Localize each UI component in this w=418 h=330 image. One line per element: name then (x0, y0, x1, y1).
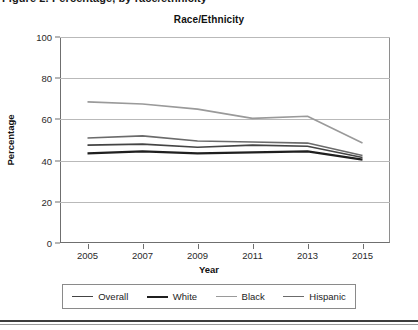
x-tick-mark (88, 244, 89, 249)
y-tick-label: 60 (12, 114, 52, 125)
legend-item-overall[interactable]: Overall (71, 291, 129, 302)
x-tick-label: 2007 (132, 250, 153, 261)
plot-area (60, 37, 390, 243)
x-tick-label: 2009 (187, 250, 208, 261)
legend-line-swatch (216, 296, 237, 297)
legend-label: White (173, 291, 197, 302)
legend-item-black[interactable]: Black (215, 291, 266, 302)
y-tick-label: 80 (12, 73, 52, 84)
x-tick-label: 2015 (352, 250, 373, 261)
x-tick-label: 2005 (77, 250, 98, 261)
legend-item-hispanic[interactable]: Hispanic (282, 291, 346, 302)
x-tick-label: 2013 (297, 250, 318, 261)
chart-card: Race/Ethnicity Percentage 020406080100 2… (0, 6, 418, 316)
chart-title: Race/Ethnicity (0, 14, 418, 25)
legend-label: Hispanic (309, 291, 345, 302)
y-tick-label: 0 (12, 238, 52, 249)
x-tick-mark (363, 244, 364, 249)
legend-label: Overall (98, 291, 128, 302)
legend-item-white[interactable]: White (146, 291, 198, 302)
legend-line-swatch (147, 296, 168, 298)
clipped-caption-text: Figure 2. Percentage, by race/ethnicity (2, 0, 207, 4)
y-tick-label: 40 (12, 155, 52, 166)
legend-line-swatch (72, 296, 93, 297)
footer-divider-thick (0, 320, 418, 322)
x-tick-mark (308, 244, 309, 249)
x-tick-mark (253, 244, 254, 249)
x-axis-title: Year (0, 264, 418, 275)
y-tick-label: 20 (12, 196, 52, 207)
x-tick-mark (198, 244, 199, 249)
footer-divider-thin (0, 324, 418, 325)
x-tick-mark (143, 244, 144, 249)
chart-legend: OverallWhiteBlackHispanic (62, 284, 356, 309)
x-tick-label: 2011 (242, 250, 262, 261)
series-line-white (88, 151, 363, 159)
y-tick-label: 100 (12, 32, 52, 43)
legend-line-swatch (283, 296, 304, 297)
legend-label: Black (242, 291, 265, 302)
series-lines (60, 37, 390, 243)
